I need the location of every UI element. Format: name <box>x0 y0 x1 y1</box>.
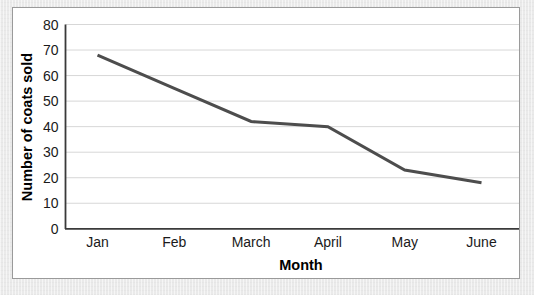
y-axis-title: Number of coats sold <box>19 53 35 201</box>
y-axis-tick-label: 60 <box>43 68 59 84</box>
y-axis-tick-label: 20 <box>43 170 59 186</box>
y-axis-tick-label: 50 <box>43 93 59 109</box>
chart-card: 01020304050607080 JanFebMarchAprilMayJun… <box>12 7 520 279</box>
y-axis-tick-labels: 01020304050607080 <box>43 17 59 237</box>
x-axis-tick-label: March <box>232 234 271 250</box>
data-series-line <box>98 55 482 183</box>
x-axis-tick-label: June <box>466 234 497 250</box>
y-axis-tick-label: 10 <box>43 195 59 211</box>
y-axis-tick-label: 30 <box>43 144 59 160</box>
y-axis-tick-label: 80 <box>43 17 59 33</box>
line-chart: 01020304050607080 JanFebMarchAprilMayJun… <box>13 8 519 278</box>
x-axis-tick-label: Feb <box>162 234 186 250</box>
x-axis-title: Month <box>279 257 322 273</box>
x-axis-tick-label: April <box>314 234 342 250</box>
y-axis-tick-label: 70 <box>43 42 59 58</box>
x-axis-tick-label: Jan <box>86 234 109 250</box>
y-axis-tick-label: 40 <box>43 119 59 135</box>
x-axis-tick-labels: JanFebMarchAprilMayJune <box>86 234 497 250</box>
y-axis-tick-label: 0 <box>51 221 59 237</box>
x-axis-tick-label: May <box>391 234 417 250</box>
